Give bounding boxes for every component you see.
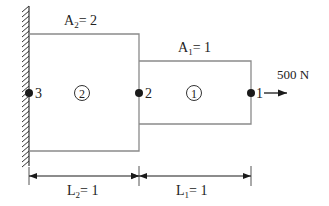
element-1-marker: 1 <box>187 86 202 101</box>
bar-diagram: A2= 2 A1= 1 3 2 1 2 1 500 N L2= 1 L1= <box>0 0 329 206</box>
node-1-dot <box>247 89 255 97</box>
area-1-label: A1= 1 <box>178 40 211 57</box>
node-2-label: 2 <box>145 86 152 101</box>
length-1-label: L1= 1 <box>176 183 207 200</box>
load-label: 500 N <box>277 67 310 82</box>
element-2-marker: 2 <box>75 86 90 101</box>
element-2-number: 2 <box>79 87 85 101</box>
node-1-label: 1 <box>256 86 263 101</box>
fixed-wall <box>22 6 29 167</box>
node-3-dot <box>25 89 33 97</box>
node-3-label: 3 <box>35 86 42 101</box>
area-2-label: A2= 2 <box>64 13 97 30</box>
element-1-number: 1 <box>191 87 197 101</box>
length-2-label: L2= 1 <box>67 183 98 200</box>
node-2-dot <box>135 89 143 97</box>
dimension-lines <box>29 166 251 186</box>
